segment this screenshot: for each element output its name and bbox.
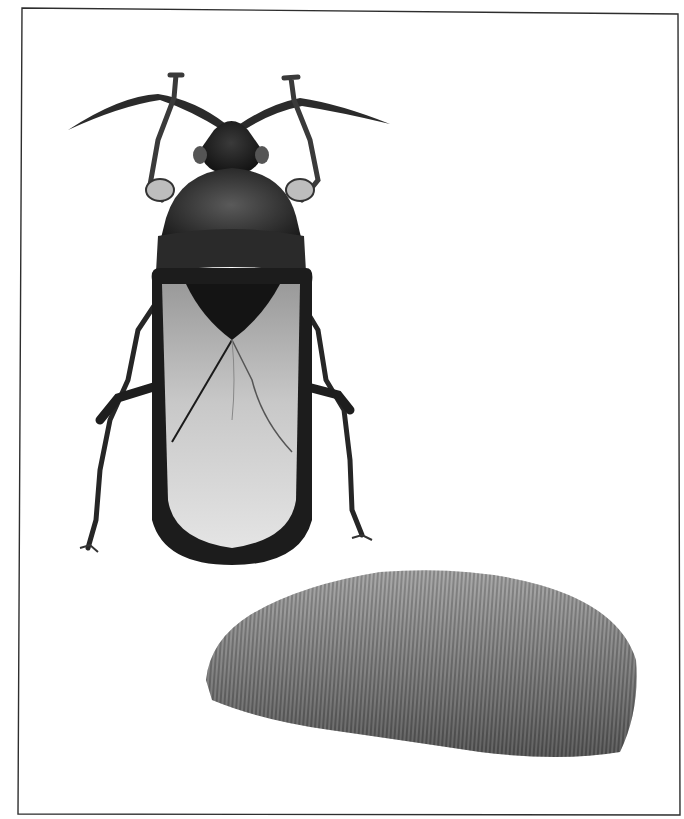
insect-figure bbox=[68, 75, 390, 565]
illustration-canvas bbox=[0, 0, 684, 819]
hair-mass-figure bbox=[206, 570, 637, 757]
